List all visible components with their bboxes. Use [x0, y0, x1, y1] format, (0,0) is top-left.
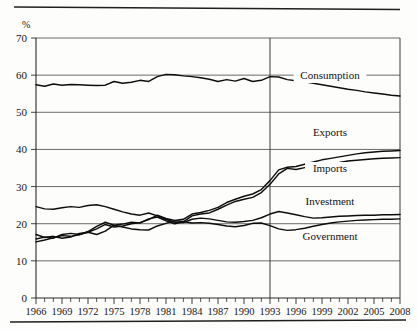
x-tick-label-1978: 1978	[130, 306, 151, 317]
y-axis-tick-labels: 010203040506070	[16, 32, 28, 304]
x-tick-label-1972: 1972	[78, 306, 99, 317]
series-label-imports: Imports	[305, 162, 355, 176]
series-label-text-consumption: Consumption	[300, 69, 360, 81]
x-tick-label-2002: 2002	[338, 306, 359, 317]
series-label-consumption: Consumption	[294, 69, 367, 83]
y-tick-label-40: 40	[16, 143, 28, 155]
y-axis-ticks	[31, 38, 36, 298]
x-axis-minor-ticks	[36, 298, 400, 304]
series-label-text-exports: Exports	[313, 126, 347, 138]
y-tick-label-50: 50	[16, 106, 28, 118]
x-tick-label-1966: 1966	[26, 306, 47, 317]
x-tick-label-1975: 1975	[104, 306, 125, 317]
x-tick-label-1981: 1981	[156, 306, 177, 317]
x-tick-label-1999: 1999	[312, 306, 333, 317]
top-rule-line	[14, 7, 400, 10]
series-lines	[36, 74, 400, 242]
x-tick-label-1996: 1996	[286, 306, 307, 317]
y-tick-label-60: 60	[16, 69, 28, 81]
bottom-rule-line	[10, 320, 406, 322]
x-tick-label-1990: 1990	[234, 306, 255, 317]
line-chart: % 010203040506070 1966196919721975197819…	[0, 0, 417, 329]
x-tick-label-2008: 2008	[390, 306, 411, 317]
x-tick-label-1969: 1969	[52, 306, 73, 317]
y-tick-label-20: 20	[16, 218, 28, 230]
y-tick-label-70: 70	[16, 32, 28, 44]
series-label-text-government: Government	[303, 230, 358, 242]
series-label-exports: Exports	[305, 126, 355, 140]
y-tick-label-0: 0	[22, 292, 28, 304]
x-tick-label-1984: 1984	[182, 306, 204, 317]
y-tick-label-10: 10	[16, 255, 28, 267]
y-axis-unit-label: %	[22, 19, 30, 30]
series-label-investment: Investment	[297, 195, 364, 209]
series-label-text-investment: Investment	[306, 195, 355, 207]
x-tick-label-2005: 2005	[364, 306, 385, 317]
x-tick-label-1987: 1987	[208, 306, 229, 317]
y-tick-label-30: 30	[16, 181, 28, 193]
series-label-government: Government	[297, 230, 364, 244]
x-tick-label-1993: 1993	[260, 306, 281, 317]
x-axis-tick-labels: 1966196919721975197819811984198719901993…	[26, 306, 411, 317]
chart-figure: % 010203040506070 1966196919721975197819…	[0, 0, 417, 329]
series-label-text-imports: Imports	[313, 162, 347, 174]
